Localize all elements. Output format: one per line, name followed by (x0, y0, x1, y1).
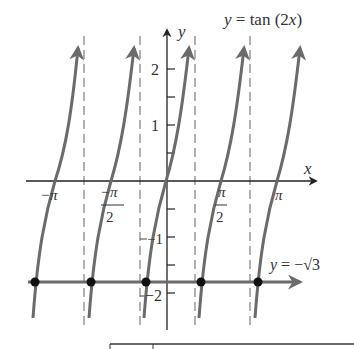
intersection-dot (31, 278, 40, 287)
x-tick-label-half-pi: π 2 (215, 184, 227, 225)
y-tick-label: −2 (145, 287, 162, 304)
tan-branch (33, 48, 78, 318)
intersection-dot (254, 278, 263, 287)
x-tick-label: −π (40, 187, 58, 203)
line-label: y = −√3 (268, 256, 320, 274)
y-axis-label: y (176, 22, 186, 41)
svg-text:2: 2 (106, 209, 114, 225)
tan-branch (89, 48, 134, 318)
x-tick-label-neg-half-pi: −π 2 (100, 184, 124, 225)
svg-text:2: 2 (216, 209, 224, 225)
intersection-dot (142, 278, 151, 287)
intersection-dot (87, 278, 96, 287)
intersection-dot (197, 278, 206, 287)
y-tick-label: 2 (151, 61, 159, 78)
tan-branch (255, 48, 300, 318)
x-axis-label: x (303, 159, 312, 178)
y-tick-label: 1 (151, 117, 159, 134)
tan-branch (199, 48, 244, 318)
svg-text:−π: −π (100, 184, 118, 200)
tan-2x-chart: y = tan (2x) y = −√3 x y 2 1 −1 −2 −π −π… (0, 0, 354, 349)
svg-text:π: π (218, 184, 226, 200)
curve-label: y = tan (2x) (222, 10, 302, 29)
y-tick-label: −1 (147, 231, 163, 247)
x-tick-label: π (275, 187, 283, 203)
